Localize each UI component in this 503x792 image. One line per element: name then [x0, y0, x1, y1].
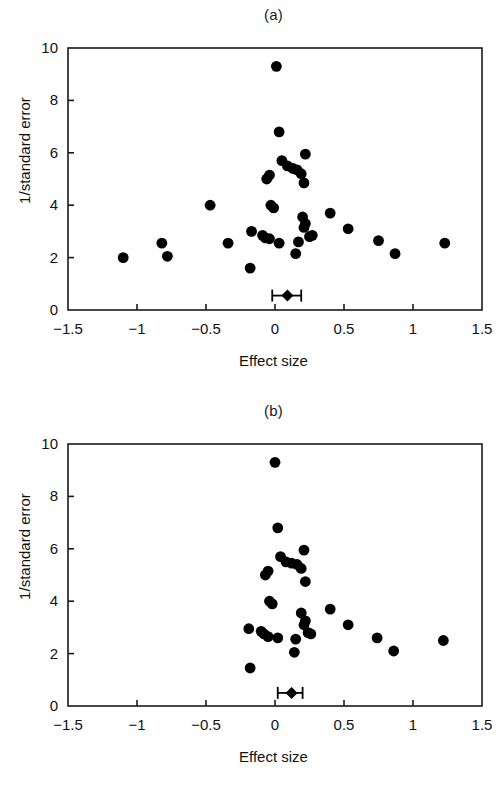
x-tick-label: 0.5	[334, 320, 355, 337]
panel-a: (a) −1.5−1−0.500.511.50246810 Effect siz…	[0, 0, 503, 396]
x-tick-label: 1.5	[472, 320, 493, 337]
plot-frame	[68, 48, 482, 310]
panel-a-xaxis-label: Effect size	[0, 352, 503, 369]
y-tick-label: 2	[50, 645, 58, 662]
y-tick-label: 4	[50, 196, 58, 213]
x-tick-label: 1	[409, 716, 417, 733]
data-point	[438, 635, 449, 646]
x-tick-label: 0	[271, 320, 279, 337]
data-point	[162, 251, 173, 262]
panel-a-yaxis-label: 1/standard error	[16, 61, 33, 241]
data-point	[299, 178, 310, 189]
panel-b-yaxis-label: 1/standard error	[16, 457, 33, 637]
data-point	[263, 631, 274, 642]
x-tick-label: −0.5	[191, 320, 221, 337]
data-point	[290, 248, 301, 259]
data-point	[388, 646, 399, 657]
y-tick-label: 10	[41, 435, 58, 452]
summary-effect-marker	[278, 687, 303, 699]
data-point	[268, 202, 279, 213]
data-point	[300, 149, 311, 160]
x-tick-label: −1.5	[53, 716, 83, 733]
data-point	[343, 223, 354, 234]
data-point	[272, 522, 283, 533]
y-tick-label: 8	[50, 487, 58, 504]
y-tick-label: 4	[50, 592, 58, 609]
data-point	[293, 236, 304, 247]
summary-effect-marker	[272, 290, 301, 302]
data-point	[205, 200, 216, 211]
data-point	[299, 545, 310, 556]
data-point	[325, 208, 336, 219]
data-point	[325, 604, 336, 615]
data-point	[343, 619, 354, 630]
data-point	[118, 252, 129, 263]
data-point	[223, 238, 234, 249]
panel-b: (b) −1.5−1−0.500.511.50246810 Effect siz…	[0, 396, 503, 792]
data-point	[274, 126, 285, 137]
y-tick-label: 0	[50, 697, 58, 714]
data-point	[272, 632, 283, 643]
data-point	[270, 457, 281, 468]
x-tick-label: 0	[271, 716, 279, 733]
data-point	[373, 235, 384, 246]
x-tick-label: −1	[128, 320, 145, 337]
panel-b-xaxis-label: Effect size	[0, 748, 503, 765]
panel-b-plot-area: −1.5−1−0.500.511.50246810	[0, 396, 503, 792]
data-point	[260, 570, 271, 581]
plot-frame	[68, 444, 482, 706]
data-point	[261, 174, 272, 185]
y-tick-label: 6	[50, 144, 58, 161]
data-point	[245, 263, 256, 274]
data-point	[245, 663, 256, 674]
data-point	[296, 563, 307, 574]
x-tick-label: −0.5	[191, 716, 221, 733]
data-point	[439, 238, 450, 249]
y-tick-label: 8	[50, 91, 58, 108]
panel-a-plot-area: −1.5−1−0.500.511.50246810	[0, 0, 503, 396]
x-tick-label: −1	[128, 716, 145, 733]
data-point	[390, 248, 401, 259]
y-tick-label: 10	[41, 39, 58, 56]
y-tick-label: 0	[50, 301, 58, 318]
x-tick-label: −1.5	[53, 320, 83, 337]
data-point	[290, 634, 301, 645]
data-point	[264, 233, 275, 244]
data-point	[300, 576, 311, 587]
data-point	[296, 168, 307, 179]
y-tick-label: 2	[50, 249, 58, 266]
x-tick-label: 0.5	[334, 716, 355, 733]
data-point	[274, 238, 285, 249]
data-point	[304, 231, 315, 242]
data-point	[289, 647, 300, 658]
y-tick-label: 6	[50, 540, 58, 557]
data-point	[243, 623, 254, 634]
x-tick-label: 1.5	[472, 716, 493, 733]
data-point	[267, 598, 278, 609]
data-point	[271, 61, 282, 72]
x-tick-label: 1	[409, 320, 417, 337]
data-point	[372, 632, 383, 643]
data-point	[299, 222, 310, 233]
funnel-plot-figure: (a) −1.5−1−0.500.511.50246810 Effect siz…	[0, 0, 503, 792]
data-point	[246, 226, 257, 237]
data-point	[303, 627, 314, 638]
data-point	[156, 238, 167, 249]
